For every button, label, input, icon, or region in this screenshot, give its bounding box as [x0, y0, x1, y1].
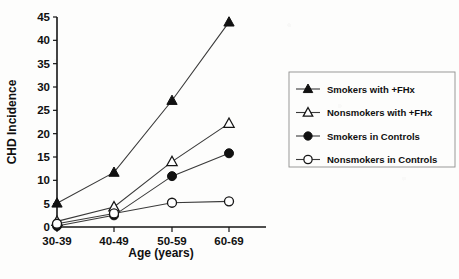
data-point-marker-filled-circle	[304, 132, 312, 140]
y-tick-label: 0	[44, 221, 50, 233]
data-point-marker-open-triangle	[224, 118, 234, 127]
x-tick-label: 60-69	[214, 235, 243, 247]
data-point-marker-open-triangle	[303, 108, 312, 117]
data-point-marker-filled-triangle	[303, 84, 312, 93]
data-point-marker-filled-circle	[168, 172, 177, 181]
data-point-marker-open-circle	[110, 209, 119, 218]
data-point-marker-open-circle	[168, 198, 177, 207]
chart-canvas: 051015202530354045 CHD Incidence 30-3940…	[0, 0, 459, 279]
y-tick-label: 35	[37, 58, 50, 70]
y-tick-label: 30	[37, 81, 50, 93]
markers-nonsmokers-with-fhx	[52, 118, 234, 225]
legend-entries: Smokers with +FHxNonsmokers with +FHxSmo…	[296, 84, 437, 166]
x-tick-label: 40-49	[99, 235, 128, 247]
y-axis-tick-labels: 051015202530354045	[37, 11, 50, 233]
y-tick-label: 20	[37, 128, 50, 140]
data-point-marker-filled-triangle	[52, 198, 62, 207]
y-tick-label: 40	[37, 34, 50, 46]
data-point-marker-filled-triangle	[224, 17, 234, 26]
legend-item-label: Smokers with +FHx	[327, 84, 416, 95]
legend-item-label: Smokers in Controls	[327, 131, 420, 142]
data-point-marker-filled-circle	[225, 149, 234, 158]
y-tick-label: 5	[44, 198, 51, 210]
y-axis: 051015202530354045 CHD Incidence	[5, 11, 57, 233]
legend-item: Nonsmokers in Controls	[296, 154, 437, 165]
y-tick-label: 15	[37, 151, 50, 163]
data-point-marker-open-triangle	[167, 156, 177, 165]
x-axis: 30-3940-4950-5960-69 Age (years)	[42, 227, 266, 260]
legend-item: Smokers in Controls	[296, 131, 420, 142]
chart-legend: Smokers with +FHxNonsmokers with +FHxSmo…	[289, 72, 455, 167]
data-point-marker-open-circle	[304, 155, 312, 163]
markers-smokers-with-fhx	[52, 17, 234, 207]
markers-smokers-in-controls	[53, 149, 234, 231]
series-nonsmokers-in-controls	[57, 201, 229, 223]
legend-item: Smokers with +FHx	[296, 84, 416, 95]
data-point-marker-open-circle	[53, 219, 62, 228]
legend-item: Nonsmokers with +FHx	[296, 107, 433, 118]
y-tick-label: 10	[37, 174, 50, 186]
legend-item-label: Nonsmokers in Controls	[327, 154, 437, 165]
data-series-layer	[52, 17, 234, 231]
series-smokers-with-fhx	[57, 22, 229, 203]
x-axis-title: Age (years)	[128, 246, 193, 260]
data-point-marker-open-circle	[225, 197, 234, 206]
legend-item-label: Nonsmokers with +FHx	[327, 107, 433, 118]
y-axis-title: CHD Incidence	[5, 79, 19, 164]
series-nonsmokers-with-fhx	[57, 123, 229, 221]
y-tick-label: 45	[37, 11, 50, 23]
series-line	[57, 201, 229, 223]
chd-incidence-line-chart: 051015202530354045 CHD Incidence 30-3940…	[0, 0, 459, 279]
y-tick-label: 25	[37, 104, 50, 116]
series-line	[57, 123, 229, 221]
series-line	[57, 22, 229, 203]
x-tick-label: 30-39	[42, 235, 71, 247]
